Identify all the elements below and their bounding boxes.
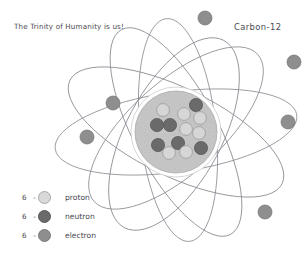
element-label: Carbon-12	[234, 22, 281, 32]
legend-dash: -	[31, 231, 38, 240]
legend-count-electron: 6	[22, 231, 31, 240]
proton-particle	[163, 147, 176, 160]
legend-item-proton: 6 - proton	[22, 188, 172, 207]
nucleus	[131, 87, 221, 177]
legend-label-neutron: neutron	[65, 212, 95, 221]
legend-label-electron: electron	[65, 231, 96, 240]
neutron-particle	[151, 138, 164, 151]
proton-particle	[180, 146, 193, 159]
electron-swatch-icon	[38, 229, 51, 242]
atom-diagram-page: The Trinity of Humanity is us! Carbon-12…	[0, 0, 306, 256]
legend: 6 - proton 6 - neutron 6 - electron	[22, 188, 172, 245]
electron-particle	[258, 205, 272, 219]
neutron-particle	[194, 141, 207, 154]
electron-particle	[281, 115, 295, 129]
legend-count-proton: 6	[22, 193, 31, 202]
proton-swatch-icon	[38, 191, 51, 204]
electron-particle	[80, 130, 94, 144]
legend-label-proton: proton	[65, 193, 90, 202]
legend-item-neutron: 6 - neutron	[22, 207, 172, 226]
legend-count-neutron: 6	[22, 212, 31, 221]
proton-particle	[178, 108, 191, 121]
proton-particle	[180, 123, 193, 136]
neutron-particle	[189, 98, 202, 111]
diagram-title: The Trinity of Humanity is us!	[14, 22, 124, 31]
neutron-particle	[163, 118, 176, 131]
proton-particle	[157, 104, 170, 117]
neutron-particle	[150, 118, 163, 131]
proton-particle	[193, 127, 206, 140]
legend-dash: -	[31, 193, 38, 202]
electron-particle	[287, 55, 301, 69]
legend-item-electron: 6 - electron	[22, 226, 172, 245]
proton-particle	[194, 112, 207, 125]
legend-dash: -	[31, 212, 38, 221]
electron-particle	[106, 96, 120, 110]
neutron-swatch-icon	[38, 210, 51, 223]
electron-particle	[198, 11, 212, 25]
